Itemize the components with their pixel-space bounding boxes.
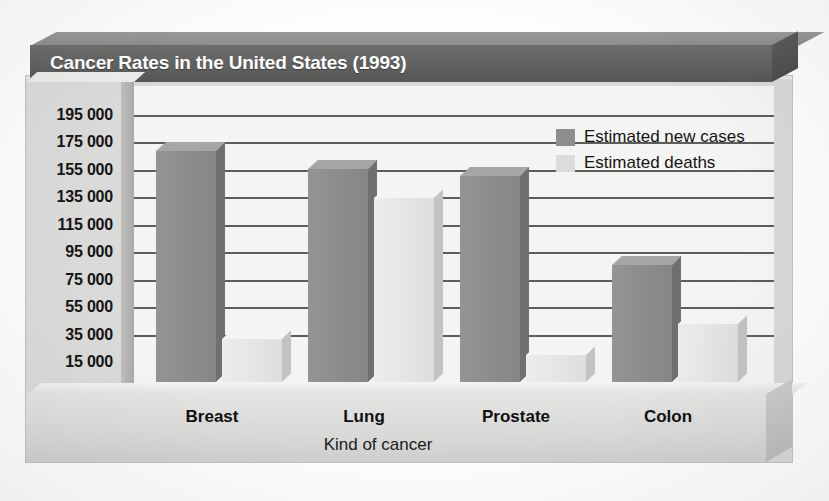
bar-lung-deaths <box>374 198 434 382</box>
bar-face <box>526 355 586 382</box>
y-axis-panel-top-bevel <box>26 72 145 82</box>
page-title: Cancer Rates in the United States (1993) <box>50 52 406 74</box>
floor-right-bevel <box>766 379 792 462</box>
bar-prostate-new-cases <box>460 176 520 382</box>
bar-side-face <box>738 316 747 382</box>
bar-face <box>374 198 434 382</box>
bar-lung-new-cases <box>308 169 368 382</box>
title-top-bevel <box>30 32 824 46</box>
bar-breast-deaths <box>222 339 282 382</box>
bar-prostate-deaths <box>526 355 586 382</box>
bar-face <box>222 339 282 382</box>
x-axis-floor: BreastLungProstateColon Kind of cancer <box>26 383 792 462</box>
y-axis-tick-label: 95 000 <box>65 243 113 261</box>
bar-face <box>156 151 216 382</box>
x-axis-tick-label-colon: Colon <box>644 407 692 427</box>
x-axis-tick-label-breast: Breast <box>186 407 239 427</box>
bar-face <box>612 265 672 382</box>
y-axis-tick-labels: 195 000175 000155 000135 000115 00095 00… <box>26 82 119 400</box>
y-axis-panel: 195 000175 000155 000135 000115 00095 00… <box>26 82 134 400</box>
bar-breast-new-cases <box>156 151 216 382</box>
bar-side-face <box>434 189 443 382</box>
legend: Estimated new cases Estimated deaths <box>556 124 745 176</box>
y-axis-tick-label: 35 000 <box>65 326 113 344</box>
y-axis-tick-label: 115 000 <box>57 216 113 234</box>
y-axis-tick-label: 55 000 <box>65 298 113 316</box>
bar-side-face <box>520 167 529 382</box>
bar-colon-new-cases <box>612 265 672 382</box>
y-axis-tick-label: 155 000 <box>57 161 113 179</box>
legend-label-deaths: Estimated deaths <box>584 153 715 173</box>
x-axis-tick-label-lung: Lung <box>343 407 385 427</box>
bar-face <box>308 169 368 382</box>
legend-item-deaths: Estimated deaths <box>556 150 745 176</box>
bar-top-face <box>526 346 596 355</box>
bar-colon-deaths <box>678 324 738 382</box>
legend-swatch-deaths-icon <box>556 155 575 172</box>
y-axis-tick-label: 15 000 <box>65 353 113 371</box>
chart-title-block: Cancer Rates in the United States (1993) <box>30 32 798 82</box>
y-axis-tick-label: 175 000 <box>57 133 113 151</box>
y-axis-tick-label: 195 000 <box>57 106 113 124</box>
y-axis-panel-shadow <box>121 82 134 400</box>
bar-face <box>460 176 520 382</box>
bar-face <box>678 324 738 382</box>
x-axis-tick-label-prostate: Prostate <box>482 407 550 427</box>
y-axis-tick-label: 75 000 <box>65 271 113 289</box>
y-axis-tick-label: 135 000 <box>57 188 113 206</box>
legend-swatch-new-cases-icon <box>556 129 575 146</box>
legend-label-new-cases: Estimated new cases <box>584 127 745 147</box>
cancer-rates-bar-chart-figure: 195 000175 000155 000135 000115 00095 00… <box>0 0 829 501</box>
legend-item-new-cases: Estimated new cases <box>556 124 745 150</box>
x-axis-title: Kind of cancer <box>324 435 433 455</box>
bar-side-face <box>282 331 291 382</box>
